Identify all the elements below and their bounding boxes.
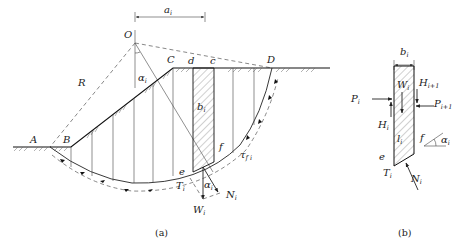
point-O-label: O <box>124 29 132 40</box>
radius-to-D <box>135 43 272 68</box>
W-i-label: Wi <box>193 204 205 217</box>
shear-arrows <box>60 79 278 192</box>
ground-surface <box>13 68 330 147</box>
b-i-label-b: bi <box>400 46 409 59</box>
caption-a: (a) <box>155 227 168 238</box>
T-i-label-b: Ti <box>383 167 392 180</box>
point-C-label: C <box>167 54 175 65</box>
point-A-label: A <box>29 134 37 145</box>
point-d-label: d <box>188 55 194 66</box>
figure-b: bi Wi Pi Hi Hi+1 Pi+1 li f αi e Ti Ni (b… <box>350 46 452 238</box>
H-i-label: Hi <box>377 119 389 132</box>
P-i1-label: Pi+1 <box>433 98 452 111</box>
slope-stability-slice-diagram: ai O αi R <box>0 0 458 249</box>
a-i-dimension: ai <box>135 4 205 22</box>
shear-direction-path <box>52 78 278 191</box>
radius-to-A <box>50 43 135 147</box>
tau-fi-label: τf i <box>240 149 252 162</box>
figure-a: ai O αi R <box>13 4 330 238</box>
ground-hatching <box>14 68 315 151</box>
alpha-i-label: αi <box>138 72 147 85</box>
N-i-label-b: Ni <box>410 173 422 186</box>
T-i-label: Ti <box>176 180 185 193</box>
f-label-b: f <box>419 132 426 143</box>
slice-i <box>193 68 214 172</box>
point-e-label: e <box>179 166 185 177</box>
N-i-label: Ni <box>225 189 237 202</box>
point-f-label: f <box>218 141 225 152</box>
caption-b: (b) <box>398 227 412 238</box>
alpha-arc <box>135 52 140 53</box>
force-triangle-dash-1 <box>203 193 220 199</box>
point-D-label: D <box>266 54 275 65</box>
alpha-arc-b <box>434 139 436 146</box>
alpha-i-label-b: αi <box>441 134 450 147</box>
e-label-b: e <box>379 151 385 162</box>
H-i1-label: Hi+1 <box>418 77 439 90</box>
radius-R-label: R <box>77 77 86 88</box>
point-c-label: c <box>210 55 216 66</box>
P-i-label: Pi <box>350 93 360 106</box>
point-B-label: B <box>62 134 70 145</box>
a-i-label: ai <box>164 4 172 17</box>
